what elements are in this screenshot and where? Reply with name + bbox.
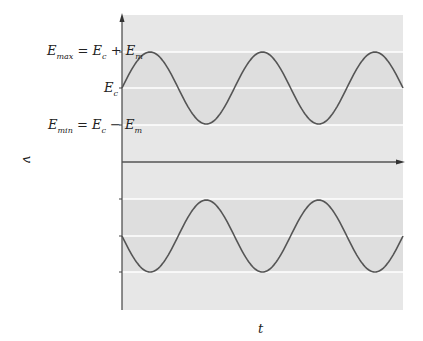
emin-label: Emin = Ec − Em [48, 117, 142, 135]
emax-label: Emax = Ec + Em [47, 43, 143, 61]
ec-label: Ec [104, 80, 118, 98]
x-axis-label: t [258, 321, 263, 336]
y-axis-label: v [20, 156, 35, 163]
